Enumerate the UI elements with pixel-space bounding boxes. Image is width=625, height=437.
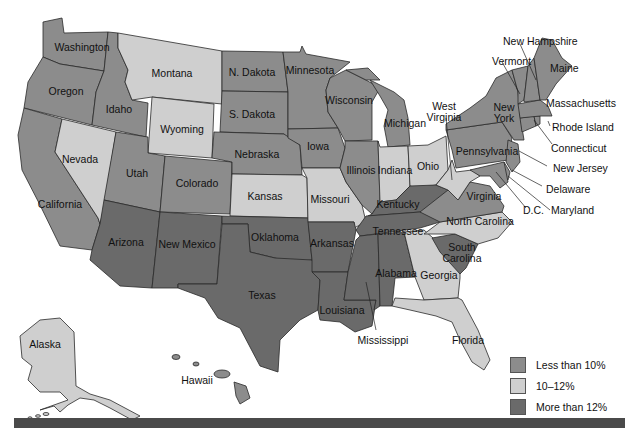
label-texas: Texas bbox=[248, 290, 275, 301]
legend-swatch-mid bbox=[510, 378, 526, 394]
legend-item-high: More than 12% bbox=[510, 396, 607, 417]
label-montana: Montana bbox=[152, 68, 193, 79]
legend-label: More than 12% bbox=[536, 401, 607, 413]
label-utah: Utah bbox=[126, 168, 148, 179]
legend-swatch-high bbox=[510, 399, 526, 415]
legend-item-low: Less than 10% bbox=[510, 354, 607, 375]
label-south-carolina: South Carolina bbox=[437, 242, 487, 264]
legend-label: 10–12% bbox=[536, 380, 575, 392]
label-nebraska: Nebraska bbox=[235, 149, 280, 160]
label-alaska: Alaska bbox=[29, 339, 61, 350]
label-wisconsin: Wisconsin bbox=[325, 95, 373, 106]
legend-item-mid: 10–12% bbox=[510, 375, 607, 396]
label-massachusetts: Massachusetts bbox=[546, 98, 616, 109]
label-washington: Washington bbox=[54, 42, 109, 53]
label-west-virginia: West Virginia bbox=[424, 101, 464, 123]
label-new-york: New York bbox=[489, 102, 519, 124]
label-connecticut: Connecticut bbox=[551, 143, 606, 154]
label-colorado: Colorado bbox=[176, 178, 219, 189]
label-nevada: Nevada bbox=[62, 154, 98, 165]
label-tennessee: Tennessee bbox=[373, 226, 424, 237]
label-missouri: Missouri bbox=[310, 194, 349, 205]
label-michigan: Michigan bbox=[384, 118, 426, 129]
label-arizona: Arizona bbox=[108, 237, 144, 248]
label-kansas: Kansas bbox=[247, 191, 282, 202]
label-idaho: Idaho bbox=[106, 104, 132, 115]
label-north-carolina: North Carolina bbox=[446, 216, 514, 227]
label-pennsylvania: Pennsylvania bbox=[456, 146, 518, 157]
label-dc: D.C. bbox=[523, 205, 544, 216]
label-hawaii: Hawaii bbox=[181, 375, 213, 386]
label-iowa: Iowa bbox=[307, 141, 329, 152]
label-minnesota: Minnesota bbox=[286, 65, 334, 76]
legend-label: Less than 10% bbox=[536, 359, 605, 371]
label-oklahoma: Oklahoma bbox=[251, 232, 299, 243]
label-n-dakota: N. Dakota bbox=[229, 67, 276, 78]
label-maine: Maine bbox=[550, 63, 579, 74]
label-virginia: Virginia bbox=[467, 191, 502, 202]
label-mississippi: Mississippi bbox=[358, 335, 409, 346]
label-wyoming: Wyoming bbox=[160, 124, 204, 135]
label-oregon: Oregon bbox=[48, 86, 83, 97]
legend: Less than 10% 10–12% More than 12% bbox=[510, 354, 607, 417]
label-florida: Florida bbox=[452, 335, 484, 346]
label-new-hampshire: New Hampshire bbox=[503, 36, 578, 47]
state-alaska bbox=[20, 318, 140, 420]
label-delaware: Delaware bbox=[546, 184, 590, 195]
label-kentucky: Kentucky bbox=[376, 199, 419, 210]
label-new-mexico: New Mexico bbox=[158, 239, 215, 250]
label-louisiana: Louisiana bbox=[320, 305, 365, 316]
label-s-dakota: S. Dakota bbox=[229, 109, 275, 120]
label-new-jersey: New Jersey bbox=[553, 163, 608, 174]
label-illinois: Illinois bbox=[346, 165, 375, 176]
label-indiana: Indiana bbox=[378, 165, 412, 176]
label-alabama: Alabama bbox=[375, 268, 416, 279]
label-ohio: Ohio bbox=[417, 161, 439, 172]
label-arkansas: Arkansas bbox=[310, 238, 354, 249]
state-connecticut bbox=[520, 116, 536, 132]
legend-swatch-low bbox=[510, 357, 526, 373]
label-vermont: Vermont bbox=[492, 56, 531, 67]
label-rhode-island: Rhode Island bbox=[552, 122, 614, 133]
label-maryland: Maryland bbox=[551, 205, 594, 216]
label-georgia: Georgia bbox=[420, 270, 457, 281]
divider-bar bbox=[14, 418, 625, 428]
label-california: California bbox=[38, 199, 82, 210]
